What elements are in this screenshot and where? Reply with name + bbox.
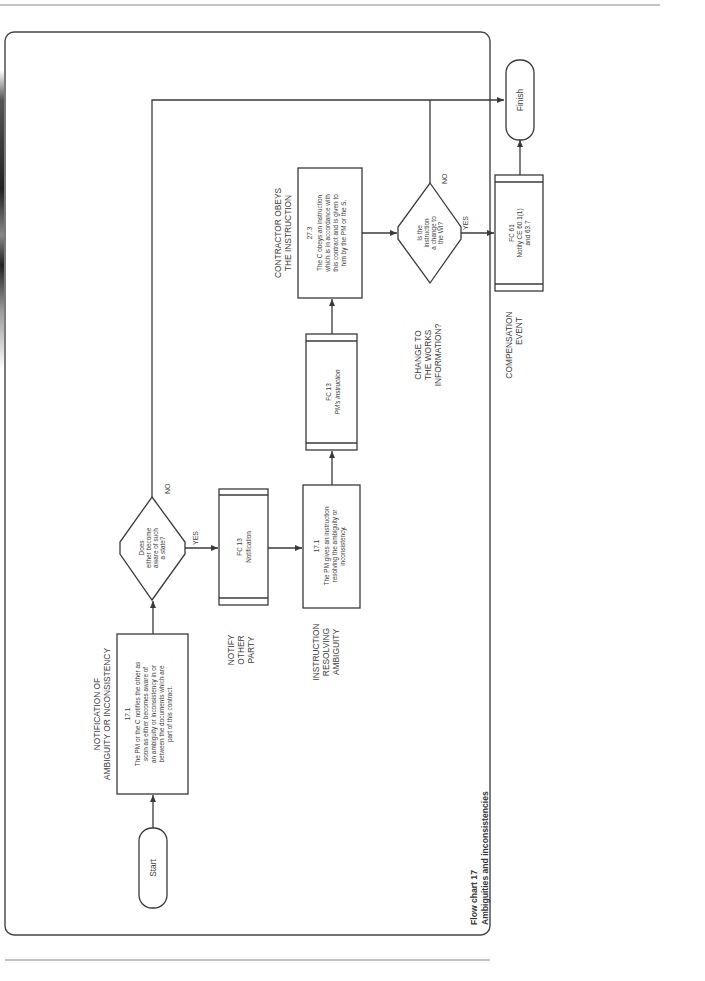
stage-text-line: THE WORKS [423, 329, 433, 380]
clause-ref: 17.1 [124, 707, 131, 720]
box-text-line: and 63.7 [524, 220, 531, 245]
decision-text-line: a state? [159, 536, 166, 559]
box-text-line: Notify CE 60.1(1) [516, 208, 524, 257]
decision-text-line: the WI? [437, 222, 444, 244]
caption-title: Flow chart 17 [469, 870, 479, 925]
yes-label: YES [192, 531, 199, 545]
diagram-frame [5, 32, 490, 935]
flowchart-canvas: Start Finish 17.1 The PM or the C notifi… [0, 0, 705, 981]
stage-notification: NOTIFICATION OF AMBIGUITY OR INCONSISTEN… [92, 648, 112, 780]
stage-contractor-obeys: CONTRACTOR OBEYS THE INSTRUCTION [273, 188, 293, 279]
box-fc13-pm-instruction: FC 13 PM's instruction [306, 334, 357, 450]
stage-instruction-resolving: INSTRUCTION RESOLVING AMBIGUITY [311, 623, 341, 680]
box-clause-17-1-notify: 17.1 The PM or the C notifies the other … [117, 634, 188, 794]
clause-ref: 27.3 [306, 226, 313, 239]
stage-text-line: PARTY [246, 636, 256, 664]
box-text-line: The PM gives an instruction [323, 506, 331, 585]
decision-text-line: either become [145, 527, 152, 568]
no-label: NO [441, 173, 448, 184]
stage-text-line: THE INSTRUCTION [283, 195, 293, 271]
box-text-line: him by the PM or the S. [340, 199, 348, 266]
clause-ref: FC 13 [236, 538, 243, 556]
yes-label: YES [462, 216, 469, 230]
finish-label: Finish [515, 88, 525, 111]
stage-change-works-information: CHANGE TO THE WORKS INFORMATION? [413, 323, 443, 386]
stage-text-line: INSTRUCTION [311, 623, 321, 680]
stage-text-line: OTHER [236, 635, 246, 664]
no-label: NO [164, 483, 171, 494]
decision-text-line: Is the [416, 225, 423, 241]
box-text-line: resolving the ambiguity or [331, 509, 339, 583]
decision-aware: Does either become aware of such a state… [120, 483, 199, 600]
stage-text-line: AMBIGUITY [331, 629, 341, 675]
figure-caption: Flow chart 17 Ambiguities and inconsiste… [469, 791, 490, 925]
clause-ref: FC 61 [508, 224, 515, 242]
stage-text-line: NOTIFICATION OF [92, 678, 102, 750]
stage-text-line: EVENT [514, 317, 524, 345]
start-label: Start [148, 858, 158, 876]
stage-text-line: CHANGE TO [413, 330, 423, 380]
stage-text-line: CONTRACTOR OBEYS [273, 188, 283, 279]
box-text-line: this contract and is given to [332, 194, 340, 272]
box-text-line: Notification [245, 531, 252, 563]
stage-text-line: RESOLVING [321, 628, 331, 676]
decision-text-line: aware of such [152, 528, 159, 568]
start-terminator: Start [139, 828, 167, 908]
clause-ref: FC 13 [325, 383, 332, 401]
box-text-line: part of this contract. [166, 686, 174, 742]
decision-change-wi: Is the instruction a change to the WI? N… [398, 173, 469, 283]
box-text-line: inconsistency. [339, 526, 347, 566]
caption-subtitle: Ambiguities and inconsistencies [480, 791, 490, 925]
box-text-line: The C obeys an instruction [316, 195, 324, 271]
decision-text-line: instruction [423, 218, 430, 248]
box-fc13-notification: FC 13 Notification [219, 489, 268, 605]
box-fc61: FC 61 Notify CE 60.1(1) and 63.7 [495, 175, 543, 291]
stage-text-line: INFORMATION? [433, 323, 443, 386]
stage-text-line: COMPENSATION [504, 311, 514, 378]
stage-text-line: AMBIGUITY OR INCONSISTENCY [102, 648, 112, 780]
box-text-line: soon as either becomes aware of [142, 667, 149, 761]
box-text-line: PM's instruction [334, 369, 341, 414]
box-text-line: The PM or the C notifies the other as [134, 662, 141, 766]
box-text-line: an ambiguity or inconsistency in or [150, 664, 158, 763]
stage-text-line: NOTIFY [226, 634, 236, 665]
stage-notify-other-party: NOTIFY OTHER PARTY [226, 634, 256, 665]
clause-ref: 17.1 [313, 539, 320, 552]
stage-compensation-event: COMPENSATION EVENT [504, 311, 524, 378]
box-text-line: between the documents which are [158, 665, 165, 762]
finish-terminator: Finish [506, 60, 534, 140]
box-clause-27-3: 27.3 The C obeys an instruction which is… [298, 168, 362, 298]
box-text-line: which is in accordance with [324, 194, 331, 273]
decision-text-line: Does [138, 541, 145, 556]
box-clause-17-1-instruction: 17.1 The PM gives an instruction resolvi… [303, 485, 360, 608]
